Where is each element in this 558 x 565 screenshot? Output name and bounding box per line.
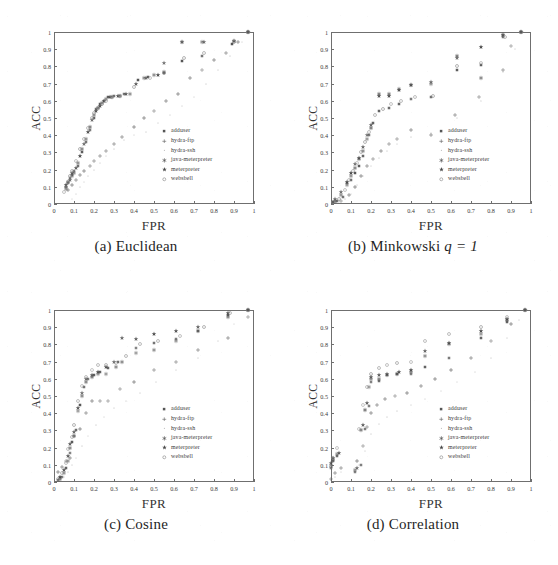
caption-index: (b) (348, 238, 370, 254)
y-tick-mark (54, 66, 57, 67)
circle-marker-icon (435, 455, 448, 460)
caption-index: (c) (104, 516, 125, 532)
legend-d: adduserhydra-ftphydra-sshjava-meterprete… (435, 405, 489, 463)
y-tick-mark (331, 204, 334, 205)
legend-item-hydra-ftp: hydra-ftp (435, 136, 489, 146)
y-tick-mark (54, 327, 57, 328)
y-tick-label: 0.3 (320, 149, 328, 156)
legend-item-websbell: websbell (158, 453, 212, 463)
x-tick-mark (74, 479, 75, 482)
x-tick-mark (254, 201, 255, 204)
legend-label: hydra-ftp (448, 138, 471, 144)
y-tick-mark (54, 310, 57, 311)
x-axis-label-d: FPR (419, 496, 443, 512)
y-tick-label: 1 (48, 29, 51, 36)
y-tick-label: 0.9 (43, 324, 51, 331)
y-tick-label: 0.1 (320, 183, 328, 190)
legend-label: meterpreter (448, 167, 477, 173)
x-tick-mark (431, 201, 432, 204)
square-marker-icon (158, 129, 171, 133)
y-axis-label-c: ACC (30, 384, 42, 409)
y-tick-label: 0.7 (320, 80, 328, 87)
x-tick-label: 0.4 (407, 485, 415, 492)
y-tick-label: 0.1 (43, 183, 51, 190)
caption-d: (d) Correlation (283, 516, 543, 533)
y-tick-label: 0.6 (43, 375, 51, 382)
y-tick-label: 0.6 (320, 375, 328, 382)
y-tick-label: 0.7 (320, 358, 328, 365)
asterisk-marker-icon (435, 436, 448, 441)
y-tick-mark (54, 482, 57, 483)
legend-item-adduser: adduser (435, 127, 489, 137)
legend-item-java-meterpreter: java-meterpreter (158, 155, 212, 165)
x-tick-mark (431, 479, 432, 482)
y-tick-label: 0.8 (43, 63, 51, 70)
x-tick-label: 0.6 (170, 207, 178, 214)
x-tick-mark (511, 479, 512, 482)
y-tick-label: 0.8 (320, 341, 328, 348)
legend-label: meterpreter (171, 167, 200, 173)
legend-label: hydra-ssh (448, 426, 472, 432)
x-tick-label: 0.5 (427, 485, 435, 492)
x-tick-mark (391, 479, 392, 482)
star-marker-icon (158, 445, 171, 450)
axes-frame-c (54, 310, 254, 482)
y-tick-label: 0.3 (43, 149, 51, 156)
y-tick-label: 1 (325, 307, 328, 314)
y-tick-label: 0.4 (43, 132, 51, 139)
axes-frame-a (54, 32, 254, 204)
legend-item-hydra-ftp: hydra-ftp (158, 136, 212, 146)
axes-frame-d (331, 310, 531, 482)
x-tick-mark (411, 479, 412, 482)
y-tick-label: 0 (48, 201, 51, 208)
x-tick-label: 0 (329, 485, 332, 492)
square-marker-icon (435, 407, 448, 411)
x-tick-mark (234, 201, 235, 204)
y-tick-mark (54, 204, 57, 205)
legend-item-adduser: adduser (158, 405, 212, 415)
x-tick-label: 0 (52, 207, 55, 214)
x-tick-mark (114, 479, 115, 482)
y-tick-mark (331, 465, 334, 466)
legend-c: adduserhydra-ftphydra-sshjava-meterprete… (158, 405, 212, 463)
x-tick-label: 0.1 (347, 485, 355, 492)
y-tick-mark (331, 379, 334, 380)
x-tick-mark (114, 201, 115, 204)
caption-index: (a) (95, 238, 116, 254)
square-marker-icon (435, 129, 448, 133)
legend-label: hydra-ssh (448, 148, 472, 154)
legend-item-hydra-ssh: hydra-ssh (158, 146, 212, 156)
legend-item-meterpreter: meterpreter (158, 443, 212, 453)
legend-label: java-meterpreter (448, 157, 489, 163)
x-tick-label: 0.3 (110, 207, 118, 214)
x-tick-label: 0.5 (427, 207, 435, 214)
x-tick-label: 0.8 (487, 485, 495, 492)
legend-label: hydra-ftp (171, 138, 194, 144)
x-tick-mark (234, 479, 235, 482)
y-tick-mark (331, 430, 334, 431)
caption-math: q = 1 (440, 238, 478, 254)
legend-label: hydra-ssh (171, 426, 195, 432)
y-tick-label: 0.8 (43, 341, 51, 348)
x-tick-mark (214, 479, 215, 482)
y-tick-label: 0.4 (43, 410, 51, 417)
y-tick-label: 0.3 (320, 427, 328, 434)
x-tick-label: 0.6 (447, 485, 455, 492)
x-tick-label: 0.1 (70, 485, 78, 492)
x-tick-label: 0 (329, 207, 332, 214)
legend-label: hydra-ftp (171, 416, 194, 422)
legend-label: meterpreter (171, 445, 200, 451)
dot-marker-icon (435, 149, 448, 152)
y-tick-label: 0.2 (43, 444, 51, 451)
x-tick-mark (134, 201, 135, 204)
x-tick-label: 1 (252, 207, 255, 214)
y-tick-mark (54, 84, 57, 85)
x-tick-label: 0.9 (507, 485, 515, 492)
panel-correlation: ACC FPR 00.10.20.30.40.50.60.70.80.9100.… (283, 288, 543, 538)
x-tick-label: 0.9 (230, 485, 238, 492)
legend-item-websbell: websbell (435, 175, 489, 185)
asterisk-marker-icon (435, 158, 448, 163)
legend-item-meterpreter: meterpreter (435, 443, 489, 453)
legend-label: adduser (171, 406, 190, 412)
x-tick-label: 0.5 (150, 207, 158, 214)
